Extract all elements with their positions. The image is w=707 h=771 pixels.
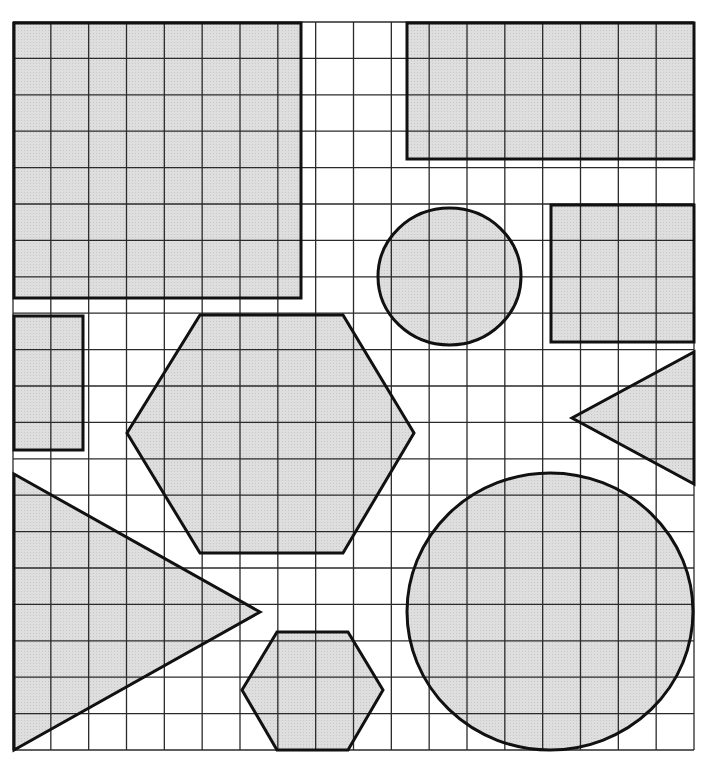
left-small-rectangle-fill — [14, 316, 83, 450]
top-left-square-fill — [14, 23, 301, 298]
shapes-grid-diagram — [0, 0, 707, 771]
right-rectangle-fill — [551, 205, 694, 342]
top-right-rectangle-fill — [407, 23, 694, 159]
